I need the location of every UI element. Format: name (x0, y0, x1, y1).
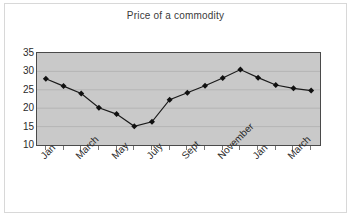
x-tick-label: March (74, 134, 101, 161)
x-tick-label: Jan (39, 143, 57, 161)
x-tick-label: November (216, 121, 256, 161)
x-tick-label: March (286, 134, 313, 161)
x-tick-label: July (145, 141, 165, 161)
chart-figure: Price of a commodity 101520253035 JanMar… (0, 0, 351, 217)
x-tick-label: Sept (180, 139, 202, 161)
x-tick-label: Jan (251, 143, 269, 161)
x-axis-labels: JanMarchMayJulySeptNovemberJanMarch (0, 0, 351, 217)
x-tick-label: May (110, 141, 130, 161)
